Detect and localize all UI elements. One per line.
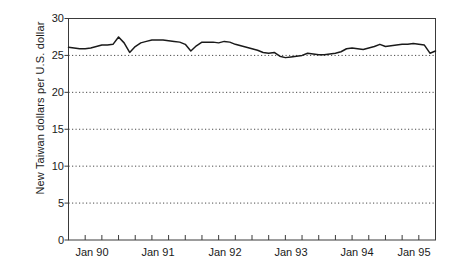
exchange-rate-line-chart: New Taiwan dollars per U.S. dollar 30 25…: [0, 0, 459, 280]
x-axis-tick-labels: Jan 90 Jan 91 Jan 92 Jan 93 Jan 94 Jan 9…: [0, 247, 459, 267]
x-tick-label: Jan 90: [75, 247, 108, 258]
x-tick-label: Jan 93: [274, 247, 307, 258]
gridlines: [69, 55, 436, 203]
plot-area: [0, 0, 459, 280]
data-series-line: [69, 37, 436, 58]
x-axis-tick-marks: [65, 19, 436, 241]
x-tick-label: Jan 91: [141, 247, 174, 258]
x-tick-label: Jan 92: [208, 247, 241, 258]
x-tick-label: Jan 94: [340, 247, 373, 258]
x-tick-label: Jan 95: [397, 247, 430, 258]
